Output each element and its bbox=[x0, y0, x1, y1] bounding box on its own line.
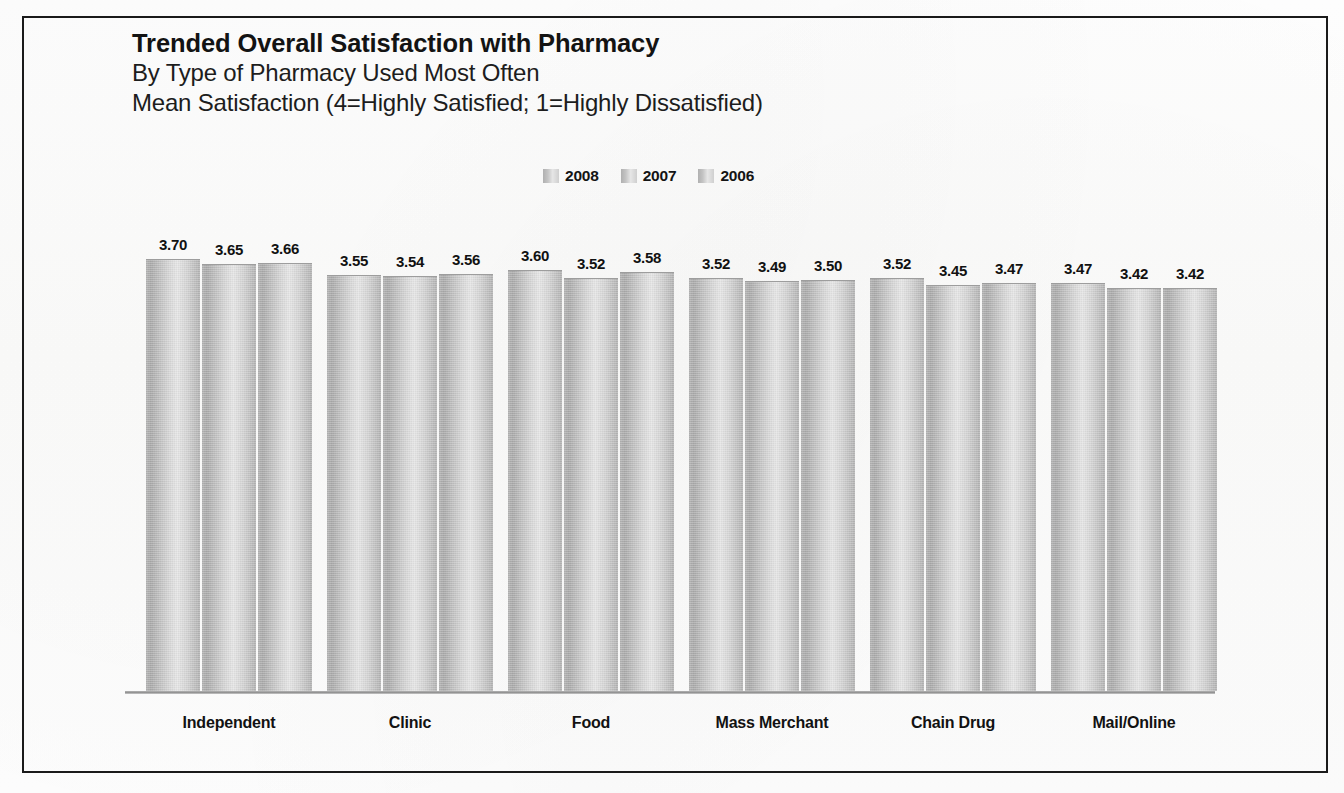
bar-body bbox=[327, 275, 381, 691]
bar-group: 3.473.423.42 bbox=[1051, 131, 1217, 691]
x-axis-category-label: Clinic bbox=[389, 714, 431, 732]
x-axis-category-label: Mass Merchant bbox=[716, 714, 829, 732]
bar-value-label: 3.42 bbox=[1120, 265, 1148, 282]
bar-body bbox=[620, 272, 674, 691]
bar-value-label: 3.52 bbox=[702, 255, 730, 272]
bar-group: 3.703.653.66 bbox=[146, 131, 312, 691]
bar-body bbox=[926, 285, 980, 691]
bar-body bbox=[146, 259, 200, 691]
x-axis-category-label: Independent bbox=[183, 714, 276, 732]
bar-value-label: 3.65 bbox=[215, 241, 243, 258]
bar-group: 3.553.543.56 bbox=[327, 131, 493, 691]
bar-value-label: 3.55 bbox=[340, 252, 368, 269]
bar[interactable]: 3.58 bbox=[620, 272, 674, 691]
bar-value-label: 3.45 bbox=[939, 262, 967, 279]
bar-body bbox=[1163, 288, 1217, 691]
bar-value-label: 3.56 bbox=[452, 251, 480, 268]
bar-value-label: 3.50 bbox=[814, 257, 842, 274]
bar[interactable]: 3.49 bbox=[745, 281, 799, 691]
chart-plot-area: 3.703.653.66Independent3.553.543.56Clini… bbox=[0, 0, 1344, 793]
bar-body bbox=[258, 263, 312, 691]
bar-group: 3.523.493.50 bbox=[689, 131, 855, 691]
bar-group: 3.603.523.58 bbox=[508, 131, 674, 691]
bar-body bbox=[383, 276, 437, 691]
bar-value-label: 3.52 bbox=[577, 255, 605, 272]
bar-body bbox=[1107, 288, 1161, 691]
bar-value-label: 3.42 bbox=[1176, 265, 1204, 282]
bar[interactable]: 3.47 bbox=[1051, 283, 1105, 691]
bar[interactable]: 3.52 bbox=[870, 278, 924, 691]
bar[interactable]: 3.52 bbox=[689, 278, 743, 691]
bar[interactable]: 3.42 bbox=[1107, 288, 1161, 691]
bar-body bbox=[564, 278, 618, 691]
x-axis-category-label: Chain Drug bbox=[911, 714, 995, 732]
bar[interactable]: 3.60 bbox=[508, 270, 562, 691]
bar[interactable]: 3.55 bbox=[327, 275, 381, 691]
bar-value-label: 3.52 bbox=[883, 255, 911, 272]
bar-body bbox=[202, 264, 256, 691]
bar[interactable]: 3.70 bbox=[146, 259, 200, 691]
bar-value-label: 3.60 bbox=[521, 247, 549, 264]
bar-body bbox=[982, 283, 1036, 691]
bar-value-label: 3.54 bbox=[396, 253, 424, 270]
bar-body bbox=[870, 278, 924, 691]
bar-body bbox=[745, 281, 799, 691]
bar[interactable]: 3.65 bbox=[202, 264, 256, 691]
bar[interactable]: 3.42 bbox=[1163, 288, 1217, 691]
bar-group: 3.523.453.47 bbox=[870, 131, 1036, 691]
bar[interactable]: 3.56 bbox=[439, 274, 493, 691]
bar[interactable]: 3.50 bbox=[801, 280, 855, 691]
bar-body bbox=[1051, 283, 1105, 691]
bar[interactable]: 3.54 bbox=[383, 276, 437, 691]
bar-value-label: 3.70 bbox=[159, 236, 187, 253]
x-axis-line bbox=[125, 691, 1215, 694]
bar-body bbox=[508, 270, 562, 691]
bar-value-label: 3.47 bbox=[1064, 260, 1092, 277]
bar-value-label: 3.49 bbox=[758, 258, 786, 275]
bar[interactable]: 3.52 bbox=[564, 278, 618, 691]
bar[interactable]: 3.66 bbox=[258, 263, 312, 691]
bar-value-label: 3.58 bbox=[633, 249, 661, 266]
bar-body bbox=[439, 274, 493, 691]
bar[interactable]: 3.45 bbox=[926, 285, 980, 691]
x-axis-category-label: Mail/Online bbox=[1092, 714, 1175, 732]
bar-body bbox=[689, 278, 743, 691]
bar[interactable]: 3.47 bbox=[982, 283, 1036, 691]
bar-body bbox=[801, 280, 855, 691]
x-axis-category-label: Food bbox=[572, 714, 610, 732]
bar-value-label: 3.47 bbox=[995, 260, 1023, 277]
bar-value-label: 3.66 bbox=[271, 240, 299, 257]
